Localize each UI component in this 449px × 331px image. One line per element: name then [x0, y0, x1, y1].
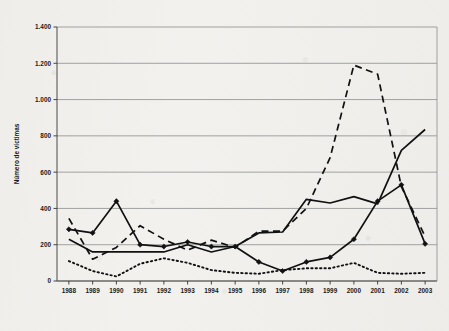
x-tick-label: 1999: [323, 287, 338, 294]
y-tick-label: 400: [40, 205, 51, 212]
x-tick-label: 2002: [394, 287, 409, 294]
x-tick-label: 1989: [86, 287, 101, 294]
x-tick-label: 1992: [157, 287, 172, 294]
plot-frame: [57, 27, 437, 281]
y-axis-title-text: Número de víctimas: [13, 123, 20, 184]
x-tick-label: 1991: [133, 287, 148, 294]
x-tick-label: 2001: [371, 287, 386, 294]
y-tick-label: 1.000: [35, 96, 51, 103]
series-line-fuerzas-estatales: [69, 258, 425, 276]
gridlines: [57, 27, 437, 281]
y-axis-tick-labels: 02004006008001.0001.2001.400: [35, 23, 51, 284]
x-tick-label: 1993: [181, 287, 196, 294]
series-marker-otros: [423, 241, 428, 246]
y-tick-label: 800: [40, 132, 51, 139]
x-tick-label: 1994: [204, 287, 219, 294]
x-tick-label: 1998: [299, 287, 314, 294]
chart-canvas: 02004006008001.0001.2001.400 19881989199…: [0, 0, 449, 331]
x-tick-label: 1995: [228, 287, 243, 294]
series-marker-otros: [185, 239, 190, 244]
series-line-paramilitares: [69, 65, 425, 259]
x-tick-label: 2000: [347, 287, 362, 294]
x-tick-label: 2003: [418, 287, 433, 294]
y-tick-marks: [54, 27, 58, 281]
x-tick-label: 1988: [62, 287, 77, 294]
y-tick-label: 0: [47, 277, 51, 284]
y-tick-label: 200: [40, 241, 51, 248]
series-line-guerrilla: [69, 130, 425, 252]
x-tick-label: 1996: [252, 287, 267, 294]
series-marker-otros: [66, 227, 71, 232]
x-axis-tick-labels: 1988198919901991199219931994199519961997…: [62, 287, 433, 294]
line-chart: 02004006008001.0001.2001.400 19881989199…: [0, 0, 449, 331]
series-marker-otros: [304, 259, 309, 264]
y-tick-label: 1.200: [35, 60, 51, 67]
x-tick-label: 1990: [109, 287, 124, 294]
y-axis-title: Número de víctimas: [13, 123, 20, 184]
x-tick-label: 1997: [276, 287, 291, 294]
y-tick-label: 1.400: [35, 23, 51, 30]
y-tick-label: 600: [40, 169, 51, 176]
series-line-otros: [69, 185, 425, 271]
x-tick-marks: [69, 281, 425, 285]
